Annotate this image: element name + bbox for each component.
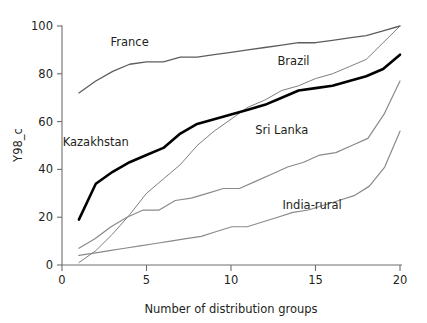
series-label-sri-lanka: Sri Lanka xyxy=(255,123,308,137)
x-tick-label: 10 xyxy=(224,273,239,287)
series-label-kazakhstan: Kazakhstan xyxy=(63,135,129,149)
series-label-india-rural: India-rural xyxy=(282,198,341,212)
x-tick-label: 0 xyxy=(58,273,65,287)
y-tick-label: 40 xyxy=(38,162,53,176)
y-tick-label: 60 xyxy=(38,115,53,129)
series-label-france: France xyxy=(110,35,148,49)
series-label-brazil: Brazil xyxy=(277,54,309,68)
y-tick-label: 100 xyxy=(31,19,53,33)
x-tick-label: 20 xyxy=(393,273,408,287)
y-tick-label: 20 xyxy=(38,210,53,224)
y-tick-label: 0 xyxy=(46,258,53,272)
x-tick-label: 15 xyxy=(308,273,323,287)
line-chart: 02040608010005101520 FranceBrazilKazakhs… xyxy=(0,0,427,323)
y-axis-title: Y98_c xyxy=(11,128,25,163)
chart-container: 02040608010005101520 FranceBrazilKazakhs… xyxy=(0,0,427,323)
axes: 02040608010005101520 xyxy=(31,19,407,287)
x-axis-title: Number of distribution groups xyxy=(144,302,317,316)
series-line-india-rural xyxy=(79,131,400,255)
y-tick-label: 80 xyxy=(38,67,53,81)
x-tick-label: 5 xyxy=(143,273,150,287)
